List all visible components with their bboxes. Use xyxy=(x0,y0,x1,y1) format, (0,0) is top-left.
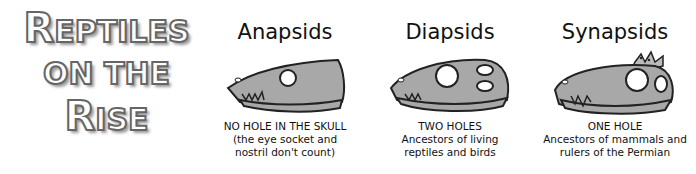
column-anapsids: Anapsids NO HOLE IN THE SKULL (the eye s… xyxy=(210,0,360,159)
skull-no-hole-icon xyxy=(220,50,350,118)
column-heading: Synapsids xyxy=(540,20,690,50)
column-diapsids: Diapsids TWO HOLES Ancestors of living r… xyxy=(380,0,520,159)
column-heading: Anapsids xyxy=(210,20,360,50)
title-text: ON THE xyxy=(14,54,199,94)
column-caption: ONE HOLE Ancestors of mammals and rulers… xyxy=(540,120,690,159)
column-caption: NO HOLE IN THE SKULL (the eye socket and… xyxy=(210,120,360,159)
column-caption: TWO HOLES Ancestors of living reptiles a… xyxy=(380,120,520,159)
title-text: ISE xyxy=(95,102,148,137)
column-synapsids: Synapsids ONE HOLE Ancestors of mammals … xyxy=(540,0,690,159)
title-text: EPTILES xyxy=(54,14,189,49)
column-heading: Diapsids xyxy=(380,20,520,50)
skull-two-holes-icon xyxy=(385,50,515,118)
title-letter: R xyxy=(64,93,95,139)
page-title: REPTILES ON THE RISE xyxy=(14,6,199,142)
skull-one-hole-crown-icon xyxy=(545,50,685,118)
title-letter: R xyxy=(23,5,54,51)
